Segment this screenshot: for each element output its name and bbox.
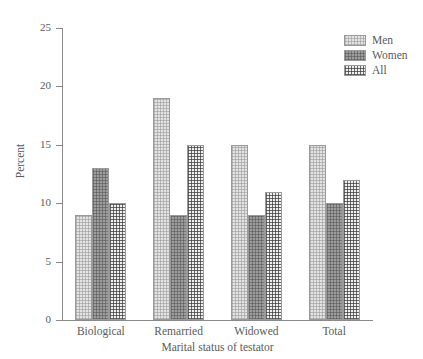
legend-swatch xyxy=(344,65,366,76)
y-axis-tick-label: 20 xyxy=(40,80,51,91)
x-axis-category-label: Total xyxy=(274,325,394,338)
legend-item: Men xyxy=(344,33,407,47)
legend-swatch xyxy=(344,35,366,46)
bar xyxy=(153,98,170,320)
bar xyxy=(170,215,187,320)
bars-layer xyxy=(62,28,373,320)
bar xyxy=(265,192,282,320)
bar xyxy=(92,168,109,320)
y-axis-tick-label: 0 xyxy=(46,314,52,325)
bar xyxy=(343,180,360,320)
bar xyxy=(109,203,126,320)
legend-label: All xyxy=(372,64,387,76)
bar xyxy=(75,215,92,320)
y-axis-title: Percent xyxy=(14,116,26,206)
y-axis-tick-label: 15 xyxy=(40,139,51,150)
y-axis-tick xyxy=(56,320,62,321)
bar-chart: Percent 0510152025 BiologicalRemarriedWi… xyxy=(0,0,423,359)
x-axis-title: Marital status of testator xyxy=(62,341,373,353)
legend-swatch xyxy=(344,50,366,61)
y-axis-tick-label: 5 xyxy=(46,256,52,267)
chart-legend: MenWomenAll xyxy=(344,33,407,78)
legend-label: Women xyxy=(372,49,407,61)
bar xyxy=(309,145,326,320)
bar xyxy=(326,203,343,320)
legend-label: Men xyxy=(372,34,393,46)
bar xyxy=(231,145,248,320)
y-axis-tick-label: 10 xyxy=(40,197,51,208)
legend-item: All xyxy=(344,63,407,77)
bar xyxy=(248,215,265,320)
x-axis-line xyxy=(62,320,373,321)
legend-item: Women xyxy=(344,48,407,62)
y-axis-tick-label: 25 xyxy=(40,22,51,33)
bar xyxy=(187,145,204,320)
